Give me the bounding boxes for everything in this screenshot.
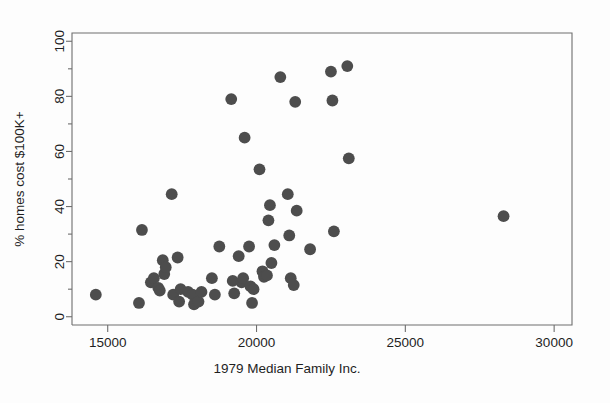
data-point	[206, 272, 218, 284]
scatter-plot-figure: 020406080100150002000025000300001979 Med…	[0, 0, 610, 403]
y-axis: 020406080100	[53, 30, 73, 320]
data-point	[291, 205, 303, 217]
data-point	[243, 241, 255, 253]
y-tick-label: 100	[53, 30, 68, 53]
x-axis-title: 1979 Median Family Inc.	[213, 361, 360, 376]
y-axis-title: % homes cost $100K+	[12, 111, 27, 247]
y-tick-label: 40	[53, 199, 68, 214]
data-point	[304, 243, 316, 255]
data-point	[173, 296, 185, 308]
plot-canvas: 020406080100150002000025000300001979 Med…	[0, 0, 610, 403]
y-tick-label: 20	[53, 254, 68, 269]
data-point	[154, 285, 166, 297]
data-point	[268, 239, 280, 251]
data-point	[325, 66, 337, 78]
x-tick-label: 25000	[387, 335, 425, 350]
data-point	[328, 225, 340, 237]
data-point	[274, 71, 286, 83]
data-point	[233, 250, 245, 262]
data-point	[166, 188, 178, 200]
x-axis: 15000200002500030000	[89, 325, 573, 350]
x-tick-label: 30000	[535, 335, 573, 350]
data-point	[254, 163, 266, 175]
data-point	[261, 270, 273, 282]
data-point	[209, 289, 221, 301]
data-point	[248, 283, 260, 295]
data-point	[343, 152, 355, 164]
data-point	[246, 297, 258, 309]
data-point	[133, 297, 145, 309]
y-tick-label: 80	[53, 89, 68, 104]
x-tick-label: 20000	[238, 335, 276, 350]
data-point	[196, 286, 208, 298]
data-point	[498, 210, 510, 222]
data-point	[288, 279, 300, 291]
data-point	[289, 96, 301, 108]
data-point	[264, 199, 276, 211]
data-point	[239, 132, 251, 144]
data-point	[136, 224, 148, 236]
data-point	[283, 230, 295, 242]
data-point	[172, 252, 184, 264]
data-point	[90, 289, 102, 301]
y-tick-label: 60	[53, 144, 68, 159]
data-point	[266, 257, 278, 269]
data-point	[225, 93, 237, 105]
data-points	[90, 60, 510, 310]
y-tick-label: 0	[53, 313, 68, 321]
data-point	[327, 95, 339, 107]
data-point	[341, 60, 353, 72]
data-point	[228, 287, 240, 299]
data-point	[160, 261, 172, 273]
data-point	[282, 188, 294, 200]
data-point	[213, 241, 225, 253]
x-tick-label: 15000	[89, 335, 127, 350]
data-point	[263, 214, 275, 226]
